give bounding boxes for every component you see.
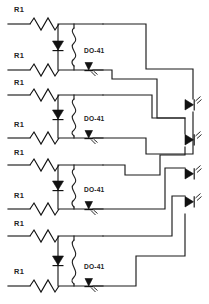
output-led-4	[185, 194, 202, 208]
route-cell1-bottom	[93, 70, 185, 134]
rectifier-diode-2	[53, 95, 64, 138]
rectifier-diode-4	[53, 236, 64, 286]
vertical-resistor-squiggle-1	[72, 24, 76, 70]
cell-4	[8, 230, 103, 292]
route-cell4-bottom	[93, 214, 185, 286]
package-label-4: DO-41	[84, 263, 105, 270]
resistor-r1-1	[8, 18, 103, 30]
resistor-label-8: R1	[14, 267, 24, 276]
signal-led-1	[84, 63, 97, 77]
rectifier-diode-1	[53, 24, 64, 70]
route-cell4-top	[103, 196, 185, 236]
route-cell3-bottom	[93, 168, 185, 209]
resistor-label-3: R1	[14, 78, 24, 87]
resistor-label-6: R1	[14, 191, 24, 200]
resistor-r1-5	[8, 159, 103, 171]
resistor-label-5: R1	[14, 148, 24, 157]
vertical-resistor-squiggle-2	[72, 95, 76, 138]
signal-led-3	[84, 202, 97, 216]
signal-led-4	[84, 279, 97, 293]
vertical-resistor-squiggle-3	[72, 165, 76, 209]
resistor-label-1: R1	[14, 5, 24, 14]
schematic-canvas: R1 R1 R1 R1 R1 R1 R1 R1 DO-41 DO-41 DO-4…	[0, 0, 209, 304]
package-label-3: DO-41	[84, 186, 105, 193]
resistor-r1-3	[8, 89, 103, 101]
circuit-schematic-svg: R1 R1 R1 R1 R1 R1 R1 R1 DO-41 DO-41 DO-4…	[0, 0, 209, 304]
resistor-label-4: R1	[14, 120, 24, 129]
route-cell3-top	[103, 147, 185, 175]
resistor-r1-7	[8, 230, 103, 242]
route-cell2-top	[103, 95, 185, 118]
package-label-2: DO-41	[84, 115, 105, 122]
package-label-1: DO-41	[84, 47, 105, 54]
route-cell1-top	[103, 24, 193, 99]
resistor-label-2: R1	[14, 51, 24, 60]
vertical-resistor-squiggle-4	[72, 236, 76, 286]
resistor-label-7: R1	[14, 219, 24, 228]
rectifier-diode-3	[53, 165, 64, 209]
output-led-3	[185, 166, 202, 180]
signal-led-2	[84, 131, 97, 145]
